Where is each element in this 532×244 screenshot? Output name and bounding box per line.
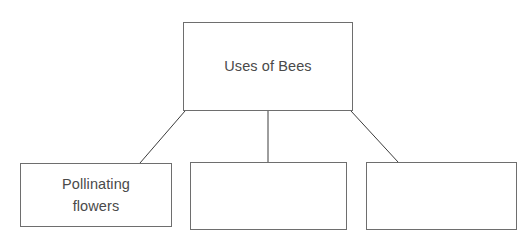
node-child-1-label: Pollinating flowers: [62, 173, 130, 218]
node-child-blank-2[interactable]: [190, 162, 347, 230]
diagram-canvas: Uses of Bees Pollinating flowers: [0, 0, 532, 244]
node-child-blank-3[interactable]: [366, 162, 517, 230]
connector-root-to-child-1: [140, 111, 185, 163]
node-root-label: Uses of Bees: [224, 55, 311, 77]
node-root[interactable]: Uses of Bees: [183, 22, 353, 111]
node-child-pollinating-flowers[interactable]: Pollinating flowers: [20, 163, 172, 227]
connector-root-to-child-3: [351, 111, 398, 162]
